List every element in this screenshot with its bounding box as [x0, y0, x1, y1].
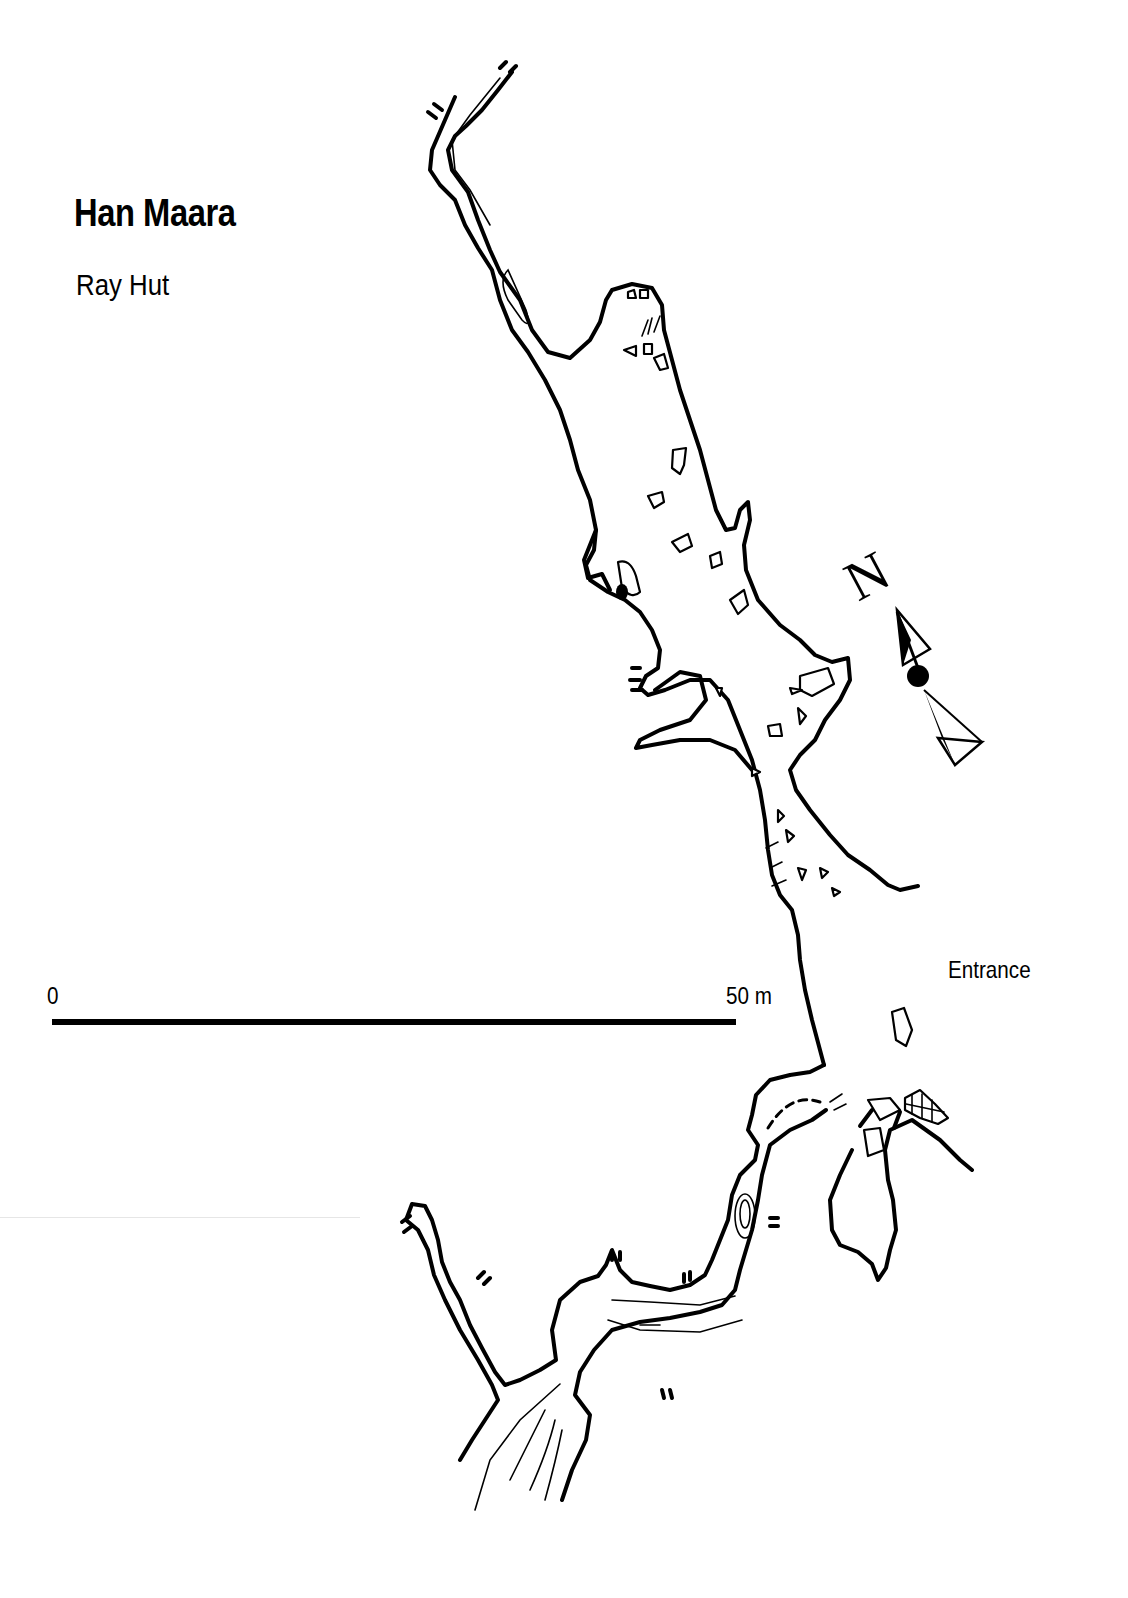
scale-bar — [52, 1019, 736, 1025]
dashed-passage-limit — [768, 1100, 820, 1128]
boulder-group — [624, 290, 912, 1156]
north-arrow-pivot — [907, 665, 929, 687]
passage-continuation-marks — [402, 62, 778, 1398]
rock-solid — [616, 584, 628, 600]
sump-pool-inner — [740, 1200, 750, 1228]
cave-wall-entrance-chamber — [830, 1120, 972, 1280]
cave-wall-east-lower — [406, 1065, 824, 1460]
cave-survey-map: N — [0, 0, 1128, 1598]
passage-centerline-nw — [452, 78, 500, 225]
north-arrow-tail-fill — [924, 690, 955, 765]
north-letter: N — [835, 539, 900, 613]
north-arrow-icon: N — [835, 539, 982, 765]
north-arrow-tail-edge — [924, 690, 982, 742]
cave-wall-nw-passage — [448, 72, 918, 890]
contour-lines — [475, 1296, 742, 1510]
